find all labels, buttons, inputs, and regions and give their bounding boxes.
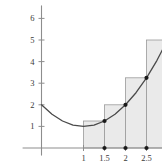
x-tick-label: 2 — [123, 153, 127, 163]
axis-point-dot — [144, 146, 148, 150]
curve-point-dot — [123, 103, 127, 107]
y-tick-label: 6 — [30, 13, 34, 23]
x-tick-label: 1.5 — [99, 153, 110, 163]
riemann-sum-figure: 12345611.522.53 — [0, 0, 162, 167]
y-tick-label: 1 — [30, 121, 34, 131]
riemann-rectangle — [105, 105, 126, 148]
y-tick-label: 5 — [30, 35, 34, 45]
curve-point-dot — [102, 119, 106, 123]
y-tick-label: 2 — [30, 100, 34, 110]
x-tick-label: 2.5 — [141, 153, 152, 163]
axis-point-dot — [123, 146, 127, 150]
x-tick-label: 1 — [81, 153, 85, 163]
y-tick-label: 3 — [30, 78, 34, 88]
riemann-rectangle — [126, 78, 147, 148]
axis-point-dot — [102, 146, 106, 150]
curve-point-dot — [144, 76, 148, 80]
plot-canvas: 12345611.522.53 — [0, 0, 162, 167]
